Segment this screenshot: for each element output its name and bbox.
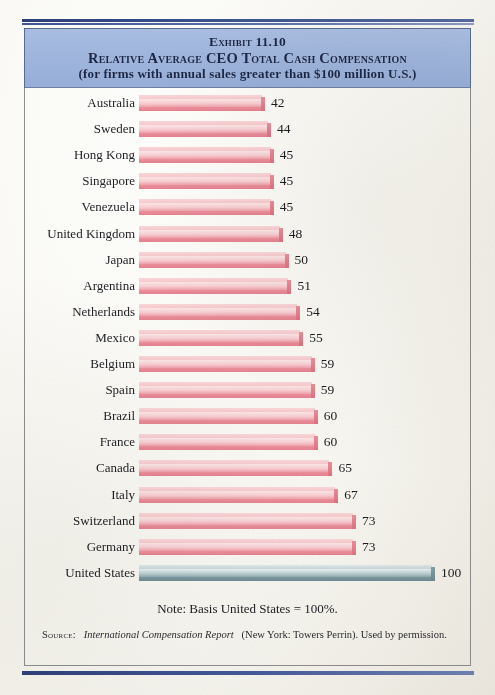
bar-base (139, 238, 280, 242)
bar-category-label: Germany (25, 536, 135, 558)
exhibit-title: Relative Average CEO Total Cash Compensa… (88, 50, 407, 66)
bar-category-label: Hong Kong (25, 144, 135, 166)
bar-track: 54 (139, 301, 452, 323)
bar-value-label: 67 (344, 484, 358, 506)
bottom-navy-rule (22, 671, 474, 675)
bar-base (139, 264, 286, 268)
bar-cap (328, 462, 332, 476)
exhibit-number: Exhibit 11.10 (209, 34, 286, 49)
bar-body (139, 308, 297, 316)
bar-body (139, 464, 329, 472)
bar-cap (270, 175, 274, 189)
bar-cap (314, 436, 318, 450)
bar-base (139, 159, 271, 163)
bar-row: Sweden44 (25, 118, 470, 140)
bar-cap (314, 410, 318, 424)
exhibit-header-band: Exhibit 11.10 Relative Average CEO Total… (24, 28, 471, 88)
bar-category-label: Singapore (25, 170, 135, 192)
bar-track: 48 (139, 223, 452, 245)
bar-category-label: Mexico (25, 327, 135, 349)
bar-base (139, 525, 353, 529)
bar-cap (431, 567, 435, 581)
bar-base (139, 211, 271, 215)
bar-value-label: 45 (280, 144, 294, 166)
bar (139, 487, 335, 503)
bar-cap (270, 149, 274, 163)
bar-category-label: Japan (25, 249, 135, 271)
bar-category-label: Argentina (25, 275, 135, 297)
bar-value-label: 73 (362, 536, 376, 558)
source-publication-title: International Compensation Report (84, 629, 234, 640)
exhibit-page: Exhibit 11.10 Relative Average CEO Total… (0, 0, 495, 695)
bar-base (139, 577, 432, 581)
bar-category-label: Canada (25, 457, 135, 479)
bar-track: 59 (139, 379, 452, 401)
source-credit: Source: International Compensation Repor… (42, 629, 458, 640)
bar (139, 434, 315, 450)
bar-track: 45 (139, 170, 452, 192)
bar-body (139, 256, 286, 264)
bar-value-label: 65 (338, 457, 352, 479)
bar-track: 42 (139, 92, 452, 114)
bar-body (139, 438, 315, 446)
bar-track: 51 (139, 275, 452, 297)
bar-base (139, 420, 315, 424)
bar-track: 60 (139, 405, 452, 427)
bar-track: 73 (139, 510, 452, 532)
bar-row: Hong Kong45 (25, 144, 470, 166)
bar-category-label: Sweden (25, 118, 135, 140)
bar-base (139, 446, 315, 450)
bar-category-label: United States (25, 562, 135, 584)
bar (139, 226, 280, 242)
bar-value-label: 73 (362, 510, 376, 532)
bar-value-label: 42 (271, 92, 285, 114)
bar-cap (296, 306, 300, 320)
bar-track: 60 (139, 431, 452, 453)
bar-category-label: France (25, 431, 135, 453)
bar-body (139, 230, 280, 238)
bar-track: 73 (139, 536, 452, 558)
bar-cap (311, 358, 315, 372)
bar-value-label: 44 (277, 118, 291, 140)
bar (139, 408, 315, 424)
bar-track: 55 (139, 327, 452, 349)
bar-base (139, 290, 288, 294)
bar-value-label: 51 (297, 275, 311, 297)
bar (139, 356, 312, 372)
bar-track: 65 (139, 457, 452, 479)
bar-track: 44 (139, 118, 452, 140)
bar-row: United Kingdom48 (25, 223, 470, 245)
bar-track: 67 (139, 484, 452, 506)
bar-row: Italy67 (25, 484, 470, 506)
bar-body (139, 569, 432, 577)
bar-category-label: Belgium (25, 353, 135, 375)
bar-cap (279, 228, 283, 242)
bar-track: 45 (139, 196, 452, 218)
bar-row: Venezuela45 (25, 196, 470, 218)
bar (139, 278, 288, 294)
bar-value-label: 48 (289, 223, 303, 245)
bar-base (139, 133, 268, 137)
bar-value-label: 59 (321, 353, 335, 375)
bar-body (139, 360, 312, 368)
bar-track: 59 (139, 353, 452, 375)
bar-base (139, 499, 335, 503)
bar-category-label: Netherlands (25, 301, 135, 323)
bar-cap (311, 384, 315, 398)
bar-value-label: 59 (321, 379, 335, 401)
bar-cap (287, 280, 291, 294)
bar-value-label: 54 (306, 301, 320, 323)
bar-value-label: 60 (324, 405, 338, 427)
bar-track: 45 (139, 144, 452, 166)
bar-body (139, 151, 271, 159)
bar-row: Singapore45 (25, 170, 470, 192)
bar (139, 539, 353, 555)
bar-row: Brazil60 (25, 405, 470, 427)
bar-value-label: 100 (441, 562, 461, 584)
bar-body (139, 412, 315, 420)
bar-row: Mexico55 (25, 327, 470, 349)
bar (139, 199, 271, 215)
bar-base (139, 185, 271, 189)
bar-body (139, 491, 335, 499)
bar-row: Belgium59 (25, 353, 470, 375)
